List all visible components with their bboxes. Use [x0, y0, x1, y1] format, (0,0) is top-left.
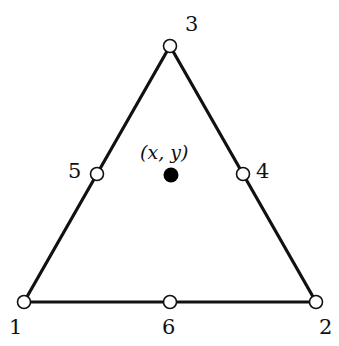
node-6 [164, 296, 177, 309]
node-label-1: 1 [9, 315, 22, 339]
interior-point [164, 168, 179, 183]
interior-point-label: (x, y) [140, 141, 188, 163]
node-4 [237, 168, 250, 181]
node-label-6: 6 [162, 315, 175, 339]
node-2 [310, 296, 323, 309]
node-5 [91, 168, 104, 181]
node-label-4: 4 [256, 159, 269, 183]
node-3 [164, 40, 177, 53]
node-label-3: 3 [185, 12, 198, 36]
node-1 [18, 296, 31, 309]
triangle-element-diagram: 1 2 3 4 5 6 (x, y) [0, 0, 339, 346]
node-label-2: 2 [319, 315, 332, 339]
node-label-5: 5 [68, 159, 81, 183]
